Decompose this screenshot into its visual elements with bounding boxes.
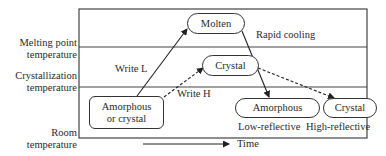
initial-state-node: Amorphous or crystal — [89, 96, 164, 129]
time-axis-label: Time — [237, 138, 259, 150]
amorphous-final-node: Amorphous — [235, 98, 320, 118]
room-label-line2: temperature — [27, 139, 77, 151]
initial-state-line2: or crystal — [107, 113, 146, 125]
rapid-cooling-label: Rapid cooling — [256, 29, 315, 41]
melting-label-line2: temperature — [20, 49, 77, 61]
room-temperature-label: Room temperature — [27, 127, 77, 151]
write-l-label: Write L — [115, 63, 148, 75]
crystal-final-node: Crystal — [323, 98, 377, 118]
crystal-intermediate-label: Crystal — [215, 60, 245, 72]
crystallization-label: Crystallization temperature — [15, 70, 77, 94]
high-reflective-label: High-reflective — [306, 121, 370, 133]
molten-node: Molten — [187, 13, 245, 34]
melting-label-line1: Melting point — [20, 37, 77, 49]
write-h-label: Write H — [177, 88, 211, 100]
molten-label: Molten — [201, 18, 231, 30]
room-label-line1: Room — [27, 127, 77, 139]
crystal-final-label: Crystal — [335, 102, 365, 114]
crystal-intermediate-node: Crystal — [202, 55, 259, 76]
crystallization-label-line1: Crystallization — [15, 70, 77, 82]
initial-state-line1: Amorphous — [102, 101, 152, 113]
melting-point-label: Melting point temperature — [20, 37, 77, 61]
amorphous-final-label: Amorphous — [253, 102, 303, 114]
low-reflective-label: Low-reflective — [238, 121, 300, 133]
crystal-retain-arrow — [258, 68, 334, 98]
crystallization-label-line2: temperature — [15, 82, 77, 94]
